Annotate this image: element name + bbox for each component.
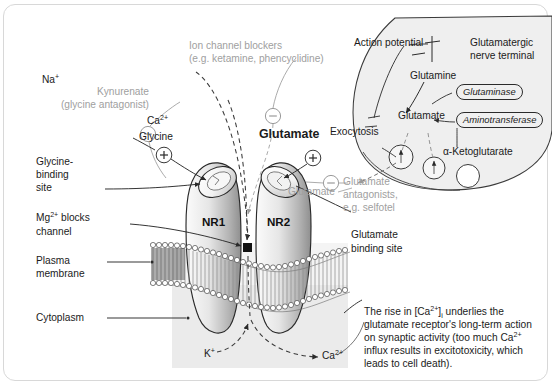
nr1-subunit-label: NR1 [202, 216, 225, 228]
glycine-binding-site-label: Glycine- [36, 156, 73, 168]
glutamate-binding-site-label-l2: binding site [351, 243, 402, 255]
ion-channel-blockers-sublabel: (e.g. ketamine, phencyclidine) [189, 53, 324, 65]
glycine-binding-site-label-l3: site [36, 182, 52, 194]
nerve-terminal-label-l2: nerve terminal [470, 50, 534, 62]
nr2-subunit-label: NR2 [267, 216, 290, 228]
kynurenate-label: Kynurenate [97, 86, 149, 98]
action-potential-label: Action potential [354, 37, 423, 49]
glutamate-binding-site-label: Glutamate [351, 229, 398, 241]
sodium-ion-label: Na+ [42, 74, 59, 86]
calcium-ion-label-top: Ca2+ [147, 115, 168, 127]
diagram-canvas: Ion channel blockers (e.g. ketamine, phe… [0, 0, 552, 385]
mg-blocks-channel-label: Mg2+ blocks [36, 212, 90, 224]
ketoglutarate-label: α-Ketoglutarate [443, 146, 513, 158]
glutamine-label: Glutamine [410, 70, 456, 82]
glutamate-bold-label: Glutamate [259, 128, 319, 140]
plasma-membrane-label-l2: membrane [36, 268, 85, 280]
exocytosis-label: Exocytosis [330, 126, 379, 138]
nerve-terminal-label: Glutamatergic [470, 37, 533, 49]
kynurenate-sublabel: (glycine antagonist) [61, 99, 149, 111]
glutamate-terminal-label: Glutamate [398, 110, 445, 122]
cytoplasm-label: Cytoplasm [36, 312, 84, 324]
glutamate-gray-label: Glutamate [288, 186, 335, 198]
glutamate-antagonists-label-l2: antagonists, [343, 189, 398, 201]
glutaminase-enzyme-box: Glutaminase [456, 84, 523, 100]
mg-blocks-channel-label-l2: channel [36, 226, 72, 238]
potassium-ion-label: K+ [204, 348, 215, 360]
glutamate-antagonists-label: Glutamate [343, 176, 390, 188]
ion-channel-blockers-label: Ion channel blockers [189, 40, 282, 52]
glycine-binding-site-label-l2: binding [36, 169, 69, 181]
calcium-ion-label-bottom: Ca2+ [322, 350, 343, 362]
calcium-caption-text: The rise in [Ca2+]i underlies the glutam… [364, 305, 550, 370]
glycine-label: Glycine [139, 131, 173, 143]
glutamate-antagonists-label-l3: e.g. selfotel [343, 202, 395, 214]
plasma-membrane-label: Plasma [36, 255, 70, 267]
aminotransferase-enzyme-box: Aminotransferase [456, 112, 543, 128]
